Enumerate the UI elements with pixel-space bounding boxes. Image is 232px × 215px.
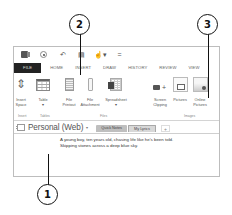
- spreadsheet-label: Spreadsheet ▾: [105, 98, 127, 107]
- tab-draw[interactable]: DRAW: [97, 63, 122, 73]
- callout-1: 1: [37, 184, 58, 205]
- file-printout-icon: [65, 78, 74, 91]
- section-tab-my-lyrics[interactable]: My Lyrics: [128, 125, 156, 132]
- callout-3-line: [208, 34, 209, 98]
- note-line: Skipping stones across a deep blue sky.: [60, 143, 215, 149]
- file-attachment-label: File Attachment: [80, 98, 99, 107]
- tab-history[interactable]: HISTORY: [122, 63, 153, 73]
- online-pictures-label: Online Pictures: [193, 98, 207, 107]
- ribbon-insert: Insert Space Table ▾ File Printout File …: [14, 75, 219, 121]
- callout-2: 2: [69, 14, 90, 35]
- callout-3: 3: [197, 14, 218, 35]
- back-icon: [40, 51, 47, 58]
- note-content[interactable]: A young boy, ten years old, chasing life…: [60, 137, 215, 149]
- onenote-logo-icon: [18, 50, 31, 60]
- notebook-name-dropdown[interactable]: Personal (Web): [28, 123, 83, 132]
- table-button[interactable]: Table ▾: [31, 77, 55, 107]
- quick-access-toolbar: ↶ ▤ ☝▾ =: [14, 47, 219, 62]
- table-icon: [36, 79, 50, 91]
- insert-space-label: Insert Space: [16, 98, 27, 107]
- pictures-label: Pictures: [173, 98, 187, 103]
- undo-icon: ↶: [60, 51, 66, 59]
- insert-space-button[interactable]: Insert Space: [9, 77, 33, 107]
- tab-file[interactable]: FILE: [14, 63, 41, 73]
- insert-space-icon: [19, 77, 23, 93]
- add-section-button[interactable]: +: [161, 125, 170, 132]
- tab-insert[interactable]: INSERT: [69, 63, 97, 73]
- onenote-window: ↶ ▤ ☝▾ = FILE HOME INSERT DRAW HISTORY R…: [13, 46, 220, 177]
- tab-view[interactable]: VIEW: [182, 63, 205, 73]
- file-attachment-icon: [88, 78, 93, 91]
- back-button[interactable]: [37, 50, 50, 60]
- customize-toolbar-button[interactable]: =: [113, 50, 126, 60]
- screen-clipping-icon: +: [153, 83, 167, 91]
- group-label-images: Images: [184, 114, 195, 118]
- pictures-icon: [173, 77, 188, 92]
- callout-2-line: [80, 34, 81, 75]
- chevron-down-icon[interactable]: ▾: [86, 125, 88, 130]
- tab-review[interactable]: REVIEW: [153, 63, 182, 73]
- section-tab-quick-notes[interactable]: Quick Notes: [96, 125, 127, 132]
- spreadsheet-icon: [110, 78, 122, 91]
- customize-icon: =: [117, 51, 121, 58]
- ribbon-tabs: FILE HOME INSERT DRAW HISTORY REVIEW VIE…: [14, 63, 219, 73]
- notebook-bar: Personal (Web) ▾ Quick Notes My Lyrics +: [14, 121, 219, 134]
- online-pictures-icon: [193, 77, 208, 92]
- undo-button[interactable]: ↶: [56, 50, 69, 60]
- group-label-tables: Tables: [40, 114, 50, 118]
- screen-clipping-label: Screen Clipping: [153, 98, 167, 107]
- spreadsheet-button[interactable]: Spreadsheet ▾: [104, 77, 128, 107]
- dock-button[interactable]: ▤: [75, 50, 88, 60]
- notebook-icon: [17, 124, 25, 131]
- table-label: Table ▾: [38, 98, 47, 107]
- group-label-files: Files: [100, 114, 107, 118]
- callout-1-line: [48, 154, 49, 186]
- tab-home[interactable]: HOME: [41, 63, 69, 73]
- file-printout-label: File Printout: [62, 98, 75, 107]
- touch-mode-button[interactable]: ☝▾: [94, 50, 107, 60]
- group-label-insert: Insert: [18, 114, 26, 118]
- file-attachment-button[interactable]: File Attachment: [78, 77, 102, 107]
- touch-icon: ☝▾: [94, 51, 107, 59]
